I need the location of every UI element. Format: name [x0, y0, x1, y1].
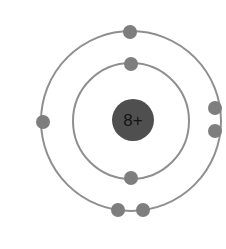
- electron-outer-right-upper: [208, 101, 222, 115]
- nucleus-charge-label: 8+: [123, 111, 142, 130]
- electron-outer-left: [36, 115, 50, 129]
- electron-outer-top: [123, 25, 137, 39]
- electron-inner-bottom: [124, 171, 138, 185]
- electron-inner-top: [124, 57, 138, 71]
- electron-outer-bottom-right: [136, 203, 150, 217]
- electron-outer-bottom-left: [111, 203, 125, 217]
- bohr-atom-diagram: 8+: [0, 0, 226, 249]
- electron-outer-right-lower: [208, 124, 222, 138]
- atom-diagram-canvas: 8+: [0, 0, 226, 249]
